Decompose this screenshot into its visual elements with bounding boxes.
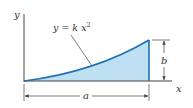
equation-label: y = k x2 — [52, 21, 91, 33]
x-axis-label: x — [176, 83, 182, 94]
width-label-a: a — [83, 90, 89, 101]
equation-leader — [71, 35, 92, 66]
shaded-region — [24, 40, 149, 81]
equation-exponent: 2 — [87, 21, 91, 29]
y-axis-label: y — [13, 9, 20, 20]
equation-base: y = k x — [52, 22, 87, 33]
parabolic-area-diagram: y x y = k x2 b a — [0, 0, 193, 108]
height-label-b: b — [161, 55, 167, 66]
